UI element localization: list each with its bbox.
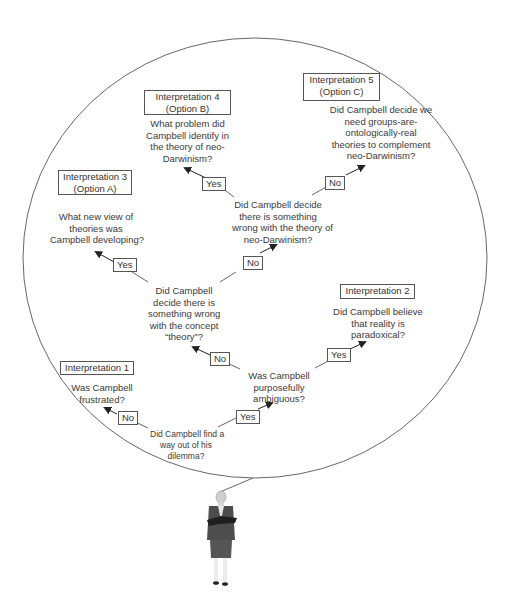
interpretation-5-title: Interpretation 5 [304, 74, 379, 86]
interpretation-3-question: What new view of theories was Campbell d… [50, 211, 142, 246]
interpretation-3-title: Interpretation 3 [59, 171, 131, 183]
interpretation-1-title: Interpretation 1 [61, 362, 133, 374]
decision-concept-theory: Did Campbell decide there is something w… [148, 285, 220, 343]
interpretation-4-option: (Option B) [145, 103, 230, 115]
interpretation-4-title: Interpretation 4 [145, 91, 230, 103]
interpretation-4-box: Interpretation 4 (Option B) [144, 90, 231, 115]
edge-neo-no: No [325, 176, 345, 190]
decision-neo-darwinism: Did Campbell decide there is something w… [232, 199, 324, 245]
decision-way-out-of-dilemma: Did Campbell find a way out of his dilem… [150, 429, 222, 462]
decision-purposefully-ambiguous: Was Campbell purposefully ambiguous? [246, 370, 312, 405]
interpretation-2-question: Did Campbell believe that reality is par… [330, 306, 426, 341]
interpretation-3-option: (Option A) [59, 183, 131, 195]
edge-root-yes: Yes [236, 410, 260, 424]
edge-concept-yes: Yes [113, 258, 137, 272]
interpretation-5-question: Did Campbell decide we need groups-are- … [326, 104, 436, 162]
edge-ambiguous-yes: Yes [327, 348, 351, 362]
edge-neo-yes: Yes [202, 177, 226, 191]
decision-tree-diagram: Interpretation 5 (Option C) Did Campbell… [0, 0, 506, 602]
interpretation-2-box: Interpretation 2 [340, 284, 415, 299]
interpretation-1-box: Interpretation 1 [60, 361, 134, 375]
interpretation-1-question: Was Campbell frustrated? [66, 382, 138, 405]
interpretation-5-option: (Option C) [304, 86, 379, 98]
interpretation-3-box: Interpretation 3 (Option A) [58, 170, 132, 195]
connector-lines [0, 0, 506, 602]
businesswoman-figure [201, 490, 241, 590]
interpretation-2-title: Interpretation 2 [341, 285, 414, 297]
edge-concept-no: No [243, 256, 263, 270]
edge-ambiguous-no: No [210, 352, 230, 366]
edge-root-no: No [118, 411, 138, 425]
interpretation-5-box: Interpretation 5 (Option C) [303, 73, 380, 101]
interpretation-4-question: What problem did Campbell identify in th… [140, 118, 235, 164]
